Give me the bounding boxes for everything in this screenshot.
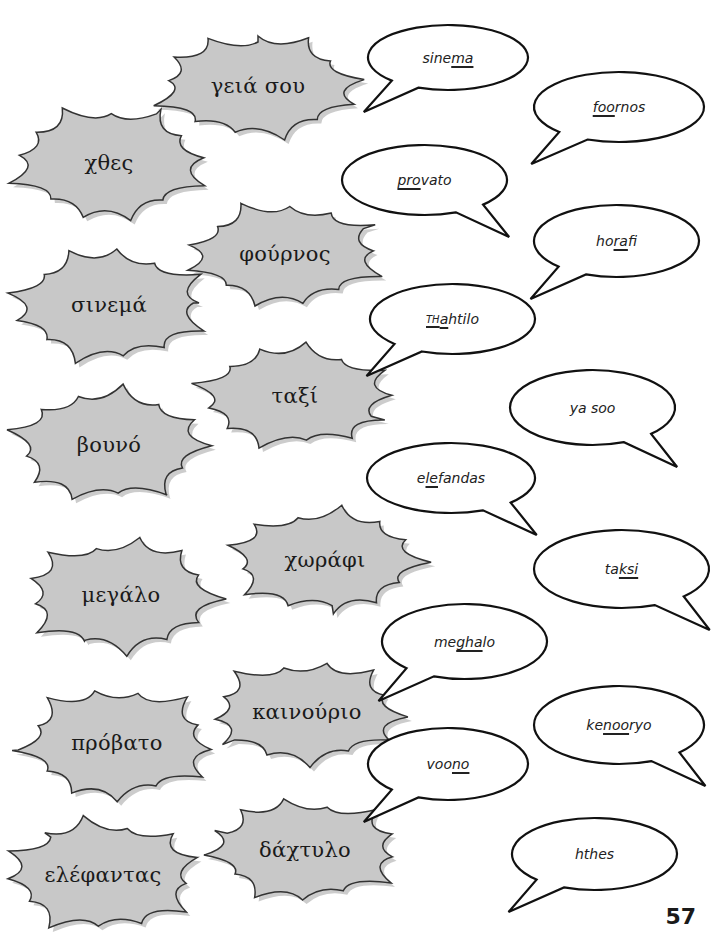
syllable: ya soo [570, 400, 616, 416]
stressed-syllable: TH [426, 314, 440, 325]
stressed-syllable: noo [603, 717, 629, 733]
syllable: me [434, 634, 456, 650]
transliteration-label: ya soo [510, 370, 675, 445]
speech-bubble-voono: voono [368, 728, 528, 828]
transliteration-label: elefandas [367, 443, 535, 513]
syllable: fi [628, 233, 637, 249]
transliteration-label: provato [342, 145, 507, 215]
syllable: rnos [615, 99, 646, 115]
stressed-syllable: no [452, 756, 469, 772]
greek-word-label: χθες [14, 108, 204, 218]
speech-bubble-thahtilo: THahtilo [370, 284, 535, 382]
syllable: ho [596, 233, 613, 249]
transliteration-label: meghalo [382, 604, 547, 679]
speech-bubble-foornos: foornos [534, 72, 704, 170]
syllable: vato [421, 172, 452, 188]
greek-word-provato: πρόβατο [22, 688, 212, 798]
transliteration-label: horafi [534, 205, 699, 277]
greek-word-sinema: σινεμά [14, 250, 204, 360]
syllable: ryo [629, 717, 652, 733]
syllable: fandas [438, 470, 485, 486]
page-number: 57 [665, 904, 696, 929]
greek-word-vouno: βουνό [14, 390, 204, 500]
speech-bubble-sinema: sinema [368, 25, 528, 118]
greek-word-label: ελέφαντας [8, 820, 198, 930]
transliteration-label: voono [368, 728, 528, 800]
greek-word-chthes: χθες [14, 108, 204, 218]
transliteration-label: hthes [512, 818, 677, 890]
greek-word-label: σινεμά [14, 250, 204, 360]
transliteration-label: sinema [368, 25, 528, 90]
stressed-syllable: foo [593, 99, 615, 115]
stressed-syllable: pro [397, 172, 420, 188]
stressed-syllable: le [425, 470, 438, 486]
stressed-syllable: ma [451, 50, 473, 66]
syllable: htilo [448, 311, 479, 327]
stressed-syllable: ra [614, 233, 628, 249]
speech-bubble-provato: provato [342, 145, 507, 243]
speech-bubble-hthes: hthes [512, 818, 677, 918]
transliteration-label: THahtilo [370, 284, 535, 354]
greek-word-taxi: ταξί [200, 346, 390, 446]
syllable: voo [427, 756, 452, 772]
greek-word-label: πρόβατο [22, 688, 212, 798]
syllable: lo [483, 634, 495, 650]
greek-word-label: ταξί [200, 346, 390, 446]
stressed-syllable: a [440, 311, 449, 327]
speech-bubble-elefandas: elefandas [367, 443, 535, 541]
greek-word-label: βουνό [14, 390, 204, 500]
speech-bubble-horafi: horafi [534, 205, 699, 305]
stressed-syllable: ksi [619, 561, 638, 577]
greek-word-label: μεγάλο [26, 540, 216, 650]
greek-word-elefantas: ελέφαντας [8, 820, 198, 930]
syllable: e [417, 470, 426, 486]
syllable: hthes [575, 846, 614, 862]
greek-word-megalo: μεγάλο [26, 540, 216, 650]
syllable: ta [605, 561, 619, 577]
syllable: sine [423, 50, 452, 66]
syllable: ke [586, 717, 603, 733]
speech-bubble-meghalo: meghalo [382, 604, 547, 707]
stressed-syllable: gha [456, 634, 482, 650]
transliteration-label: foornos [534, 72, 704, 142]
speech-bubble-taksi: taksi [534, 530, 709, 636]
transliteration-label: taksi [534, 530, 709, 608]
speech-bubble-kenooryo: kenooryo [534, 686, 704, 792]
transliteration-label: kenooryo [534, 686, 704, 764]
